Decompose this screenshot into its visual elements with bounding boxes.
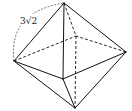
hidden-edge-back-bottom [75,36,76,108]
edge-length-label: 3√2 [20,16,37,26]
edge-right-front [63,52,126,79]
edge-right-bottom [75,52,126,108]
edge-left-front [14,61,63,79]
edge-top-left [14,3,64,61]
hidden-edge-right-back [76,36,126,52]
octahedron-diagram: 3√2 [0,0,132,111]
hidden-edge-left-back [14,36,76,61]
edge-left-bottom [14,61,75,108]
edge-top-front [63,3,64,79]
